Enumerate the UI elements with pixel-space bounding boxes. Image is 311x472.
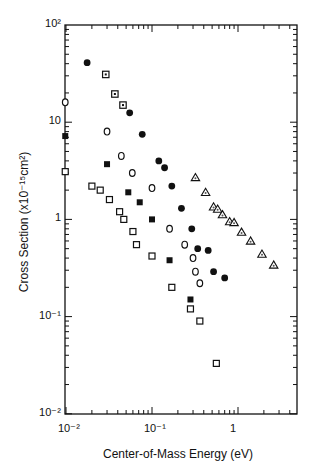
axis-ticks bbox=[65, 25, 297, 414]
filled-circles-point bbox=[188, 225, 195, 232]
open-squares-point bbox=[130, 229, 136, 235]
open-circles-point bbox=[129, 170, 135, 177]
filled-circles-point bbox=[126, 109, 133, 116]
triangles-point bbox=[258, 250, 266, 257]
x-tick-label: 10⁻² bbox=[58, 422, 80, 435]
open-squares-point bbox=[149, 253, 155, 259]
y-tick-label: 10² bbox=[45, 17, 61, 29]
filled-circles-point bbox=[161, 164, 168, 171]
filled-circles-point bbox=[84, 59, 91, 66]
cross-section-chart bbox=[0, 0, 311, 472]
open-squares-point bbox=[106, 197, 112, 203]
filled-circles-point bbox=[155, 157, 162, 164]
open-squares-point bbox=[97, 187, 103, 193]
filled-circles-point bbox=[221, 275, 228, 282]
filled-circles-point bbox=[178, 205, 185, 212]
open-squares-point bbox=[213, 360, 219, 366]
triangles-point bbox=[201, 188, 209, 195]
open-circles-point bbox=[149, 185, 155, 192]
filled-squares-point bbox=[187, 296, 193, 302]
dotted-squares-point bbox=[120, 102, 126, 108]
triangles-point bbox=[269, 261, 277, 268]
open-circles-point bbox=[167, 225, 173, 232]
plot-frame bbox=[65, 25, 297, 414]
filled-circles-point bbox=[168, 183, 175, 190]
open-squares-point bbox=[187, 306, 193, 312]
y-tick-label: 1 bbox=[55, 211, 61, 223]
open-squares-point bbox=[133, 242, 139, 248]
open-circles-point bbox=[104, 128, 110, 135]
triangles-point bbox=[246, 237, 254, 244]
open-squares-point bbox=[62, 169, 68, 175]
open-squares-point bbox=[197, 318, 203, 324]
y-tick-label: 10 bbox=[49, 114, 61, 126]
filled-squares-point bbox=[104, 161, 110, 167]
open-circles-point bbox=[193, 268, 199, 275]
filled-circles-point bbox=[139, 131, 146, 138]
open-circles-point bbox=[190, 255, 196, 262]
open-squares-point bbox=[117, 209, 123, 215]
open-squares-point bbox=[169, 284, 175, 290]
filled-circles-point bbox=[210, 268, 217, 275]
y-tick-label: 10⁻² bbox=[39, 406, 61, 419]
filled-squares-point bbox=[167, 257, 173, 263]
open-circles-point bbox=[197, 280, 203, 287]
y-tick-label: 10⁻¹ bbox=[39, 309, 61, 322]
triangles-point bbox=[191, 173, 199, 180]
x-axis-label: Center-of-Mass Energy (eV) bbox=[103, 447, 253, 461]
dotted-squares-point bbox=[112, 91, 118, 97]
filled-circles-point bbox=[205, 247, 212, 254]
filled-squares-point bbox=[125, 189, 131, 195]
data-points bbox=[62, 59, 278, 366]
open-squares-point bbox=[121, 216, 127, 222]
dotted-squares-point bbox=[103, 71, 109, 77]
filled-squares-point bbox=[62, 133, 68, 139]
open-squares-point bbox=[89, 183, 95, 189]
x-tick-label: 10⁻¹ bbox=[144, 422, 166, 435]
open-circles-point bbox=[119, 153, 125, 160]
y-axis-label: Cross Section (x10⁻¹⁵cm²) bbox=[17, 152, 31, 292]
filled-squares-point bbox=[137, 199, 143, 205]
x-tick-label: 1 bbox=[230, 422, 236, 434]
filled-squares-point bbox=[149, 216, 155, 222]
filled-circles-point bbox=[194, 245, 201, 252]
open-circles-point bbox=[62, 99, 68, 106]
triangles-point bbox=[237, 228, 245, 235]
open-circles-point bbox=[182, 241, 188, 248]
